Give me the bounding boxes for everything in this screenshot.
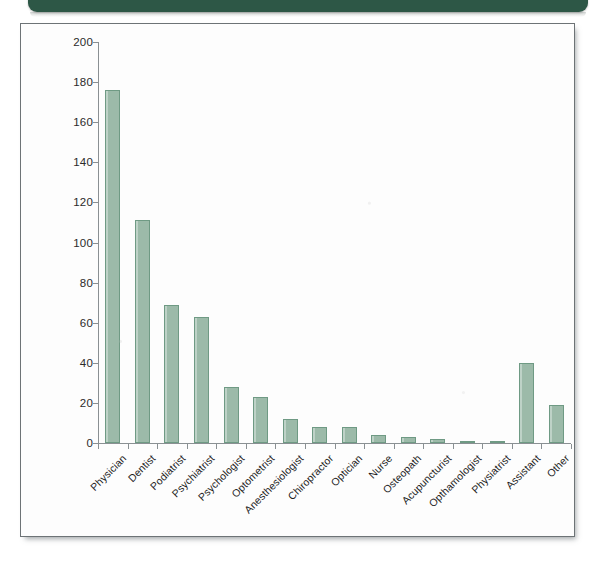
y-axis-tick-label: 200 <box>59 36 93 48</box>
y-axis-tick-label: 180 <box>59 76 93 88</box>
x-axis-tick-mark <box>394 444 395 449</box>
bar <box>312 427 327 443</box>
bar <box>401 437 416 443</box>
bar <box>194 317 209 443</box>
bar <box>283 419 298 443</box>
chart-frame: 200180160140120100806040200 PhysicianDen… <box>20 23 575 537</box>
y-axis-tick-mark <box>93 162 98 163</box>
y-axis-tick-label: 140 <box>59 156 93 168</box>
bar <box>224 387 239 443</box>
y-axis-tick-mark <box>93 403 98 404</box>
x-axis-tick-mark <box>423 444 424 449</box>
y-axis-tick-mark <box>93 323 98 324</box>
y-axis-tick-mark <box>93 283 98 284</box>
x-axis-tick-mark <box>335 444 336 449</box>
x-axis-tick-mark <box>275 444 276 449</box>
y-axis-tick-label: 160 <box>59 116 93 128</box>
banner-shadow <box>30 12 586 17</box>
y-axis-tick-mark <box>93 202 98 203</box>
x-axis-tick-mark <box>571 444 572 449</box>
x-axis-tick-mark <box>246 444 247 449</box>
y-axis-tick-label: 60 <box>59 317 93 329</box>
y-axis-tick-label: 0 <box>59 437 93 449</box>
bar <box>430 439 445 443</box>
y-axis-tick-label: 120 <box>59 196 93 208</box>
y-axis-tick-label: 20 <box>59 397 93 409</box>
y-axis-tick-label: 80 <box>59 277 93 289</box>
x-axis-tick-mark <box>364 444 365 449</box>
bar <box>371 435 386 443</box>
x-axis-tick-mark <box>453 444 454 449</box>
bar <box>490 441 505 443</box>
x-axis-tick-mark <box>216 444 217 449</box>
y-axis-label-group: 200180160140120100806040200 <box>55 24 93 538</box>
bar <box>105 90 120 443</box>
x-axis-tick-mark <box>482 444 483 449</box>
x-axis-tick-mark <box>541 444 542 449</box>
bar <box>549 405 564 443</box>
bar <box>164 305 179 443</box>
x-axis-label-group: PhysicianDentistPodiatristPsychiatristPs… <box>98 452 571 538</box>
bar <box>342 427 357 443</box>
y-axis-tick-mark <box>93 363 98 364</box>
x-axis-tick-mark <box>187 444 188 449</box>
bar <box>135 220 150 443</box>
bar <box>253 397 268 443</box>
x-axis-tick-mark <box>157 444 158 449</box>
x-axis-tick-mark <box>512 444 513 449</box>
x-axis-tick-mark <box>98 444 99 449</box>
y-axis-tick-label: 100 <box>59 237 93 249</box>
bar <box>460 441 475 443</box>
bars-layer <box>98 42 571 443</box>
y-axis-tick-mark <box>93 122 98 123</box>
bar-chart: 200180160140120100806040200 PhysicianDen… <box>21 24 576 538</box>
bar <box>519 363 534 443</box>
y-axis-tick-mark <box>93 82 98 83</box>
page-header-banner <box>28 0 588 12</box>
y-axis-tick-mark <box>93 42 98 43</box>
x-axis-tick-mark <box>305 444 306 449</box>
x-axis-tick-mark <box>128 444 129 449</box>
y-axis-tick-label: 40 <box>59 357 93 369</box>
y-axis-tick-mark <box>93 243 98 244</box>
